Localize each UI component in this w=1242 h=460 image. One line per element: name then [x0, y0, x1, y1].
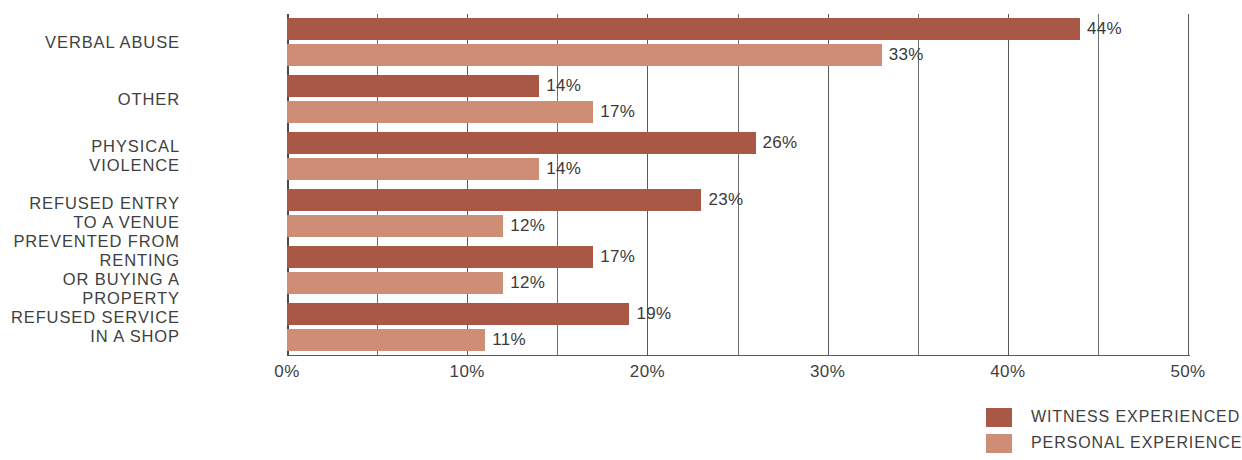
legend-label-personal: PERSONAL EXPERIENCE [1031, 434, 1242, 452]
gridline-50 [1188, 14, 1189, 355]
x-tick-label-10: 10% [450, 362, 485, 382]
bar-0-0 [287, 18, 1080, 40]
bar-value-3-0: 23% [708, 190, 743, 210]
bar-2-1 [287, 158, 539, 180]
x-tick-label-30: 30% [810, 362, 845, 382]
gridline-40 [1008, 14, 1009, 355]
bar-1-1 [287, 101, 593, 123]
bar-value-4-0: 17% [600, 247, 635, 267]
bar-5-0 [287, 303, 629, 325]
bar-value-1-0: 14% [546, 76, 581, 96]
bar-4-1 [287, 272, 503, 294]
category-label-3: REFUSED ENTRY TO A VENUE [0, 194, 180, 232]
bar-1-0 [287, 75, 539, 97]
gridline-45 [1098, 14, 1099, 355]
legend-item-personal: PERSONAL EXPERIENCE [986, 430, 1242, 456]
category-label-2: PHYSICAL VIOLENCE [0, 137, 180, 175]
bar-value-2-1: 14% [546, 159, 581, 179]
x-tick-label-40: 40% [990, 362, 1025, 382]
legend-swatch-witness-icon [986, 408, 1012, 427]
x-axis-line [287, 355, 1190, 356]
bar-value-3-1: 12% [510, 216, 545, 236]
bar-5-1 [287, 329, 485, 351]
bar-value-4-1: 12% [510, 273, 545, 293]
category-label-1: OTHER [118, 90, 180, 109]
x-tick-label-20: 20% [630, 362, 665, 382]
x-tick-label-0: 0% [274, 362, 299, 382]
bar-2-0 [287, 132, 756, 154]
bar-4-0 [287, 246, 593, 268]
bar-value-1-1: 17% [600, 102, 635, 122]
category-label-0: VERBAL ABUSE [45, 33, 180, 52]
category-label-4: PREVENTED FROM RENTING OR BUYING A PROPE… [0, 232, 180, 308]
bar-value-5-1: 11% [492, 330, 526, 350]
bar-value-0-1: 33% [889, 45, 924, 65]
category-label-5: REFUSED SERVICE IN A SHOP [0, 308, 180, 346]
bar-value-2-0: 26% [763, 133, 798, 153]
bar-3-0 [287, 189, 701, 211]
chart-legend: WITNESS EXPERIENCED PERSONAL EXPERIENCE [986, 404, 1242, 456]
legend-label-witness: WITNESS EXPERIENCED [1031, 408, 1240, 426]
bar-value-5-0: 19% [636, 304, 671, 324]
bar-3-1 [287, 215, 503, 237]
legend-item-witness: WITNESS EXPERIENCED [986, 404, 1242, 430]
legend-swatch-personal-icon [986, 434, 1012, 453]
plot-area [287, 14, 1188, 355]
bar-value-0-0: 44% [1087, 19, 1122, 39]
bar-0-1 [287, 44, 882, 66]
x-tick-label-50: 50% [1170, 362, 1205, 382]
